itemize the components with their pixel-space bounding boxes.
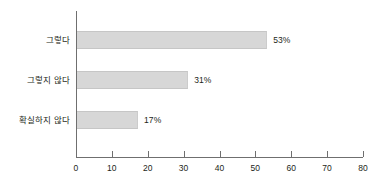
bar-value-label: 31% [194,71,211,89]
x-axis-tick [291,151,292,157]
bar [77,31,267,49]
x-axis-tick-label: 70 [312,163,342,174]
x-axis-tick [184,151,185,157]
x-axis-tick-label: 0 [61,163,91,174]
bar [77,111,138,129]
bar-value-label: 17% [144,111,161,129]
category-label: 그렇다 [0,31,76,49]
x-axis-tick [112,151,113,157]
x-axis-line [76,157,363,158]
x-axis-tick [327,151,328,157]
x-axis-tick [76,151,77,157]
x-axis-tick [363,151,364,157]
x-axis-tick-label: 10 [97,163,127,174]
bar [77,71,188,89]
x-axis-tick-label: 30 [169,163,199,174]
category-label: 확실하지 않다 [0,111,76,129]
x-axis-tick-label: 40 [205,163,235,174]
x-axis-tick [255,151,256,157]
x-axis-tick-label: 80 [348,163,378,174]
x-axis-tick-label: 20 [133,163,163,174]
x-axis-tick [148,151,149,157]
bar-value-label: 53% [273,31,290,49]
bar-chart: 01020304050607080 그렇다 그렇지 않다 확실하지 않다 53%… [0,0,387,190]
category-label: 그렇지 않다 [0,71,76,89]
x-axis-tick [220,151,221,157]
x-axis-tick-label: 50 [240,163,270,174]
x-axis-tick-label: 60 [276,163,306,174]
